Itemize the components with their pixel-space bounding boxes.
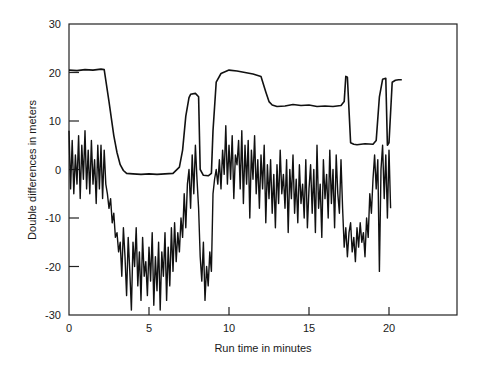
y-axis-label: Double differences in meters (26, 100, 38, 240)
x-tick-label: 15 (303, 322, 315, 334)
y-tick-label: -30 (45, 309, 61, 321)
y-tick-label: 20 (49, 67, 61, 79)
x-axis: 05101520 (66, 307, 395, 334)
x-tick-label: 20 (383, 322, 395, 334)
line-chart: -30-20-100102030 05101520 Run time in mi… (0, 0, 484, 366)
y-tick-label: 0 (55, 164, 61, 176)
x-axis-label: Run time in minutes (214, 342, 312, 354)
x-tick-label: 10 (223, 322, 235, 334)
x-tick-label: 0 (66, 322, 72, 334)
y-tick-label: 30 (49, 18, 61, 30)
plot-series (69, 69, 402, 310)
y-tick-label: -10 (45, 212, 61, 224)
y-tick-label: 10 (49, 115, 61, 127)
y-tick-label: -20 (45, 261, 61, 273)
y-axis: -30-20-100102030 (45, 18, 79, 321)
x-tick-label: 5 (146, 322, 152, 334)
